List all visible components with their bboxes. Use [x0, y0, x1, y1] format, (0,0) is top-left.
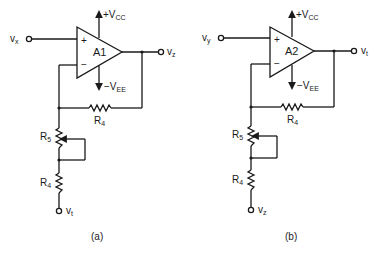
bottom-terminal [56, 208, 61, 213]
panel-b: vy + − A2 +VCC −VEE vt R4 R5 R4 vz (b) [202, 9, 368, 242]
pot-resistor-label: R5 [40, 131, 51, 143]
caption-a: (a) [91, 231, 103, 242]
pot-resistor-label: R5 [232, 129, 243, 141]
input-terminal [218, 35, 223, 40]
feedback-resistor-label: R4 [287, 114, 298, 126]
vcc-label: +VCC [296, 9, 319, 21]
minus-sign: − [81, 59, 87, 70]
feedback-resistor [281, 104, 303, 110]
vcc-label: +VCC [103, 9, 126, 21]
output-label: vt [361, 45, 368, 57]
output-terminal [351, 48, 356, 53]
pot-resistor [56, 128, 62, 148]
feedback-resistor [89, 105, 111, 111]
panel-a: vx + − A1 +VCC −VEE vz R4 R5 [10, 9, 176, 242]
opamp-label: A2 [285, 45, 298, 57]
input-terminal [26, 36, 31, 41]
vee-label: −VEE [104, 81, 126, 93]
vee-label: −VEE [297, 80, 319, 92]
circuit-diagram: vx + − A1 +VCC −VEE vz R4 R5 [0, 0, 378, 253]
bottom-terminal-label: vt [66, 205, 73, 217]
ground-resistor-label: R4 [40, 177, 51, 189]
minus-sign: − [274, 58, 280, 69]
opamp-label: A1 [93, 46, 106, 58]
ground-resistor [248, 170, 254, 190]
ground-resistor-label: R4 [232, 174, 243, 186]
feedback-resistor-label: R4 [94, 115, 105, 127]
output-terminal [158, 49, 163, 54]
output-label: vz [167, 46, 176, 58]
plus-sign: + [274, 34, 280, 45]
bottom-terminal-label: vz [258, 204, 267, 216]
bottom-terminal [248, 207, 253, 212]
input-label: vy [202, 32, 211, 45]
input-label: vx [10, 33, 19, 45]
pot-resistor [248, 126, 254, 146]
caption-b: (b) [285, 231, 297, 242]
ground-resistor [56, 173, 62, 193]
plus-sign: + [81, 35, 87, 46]
